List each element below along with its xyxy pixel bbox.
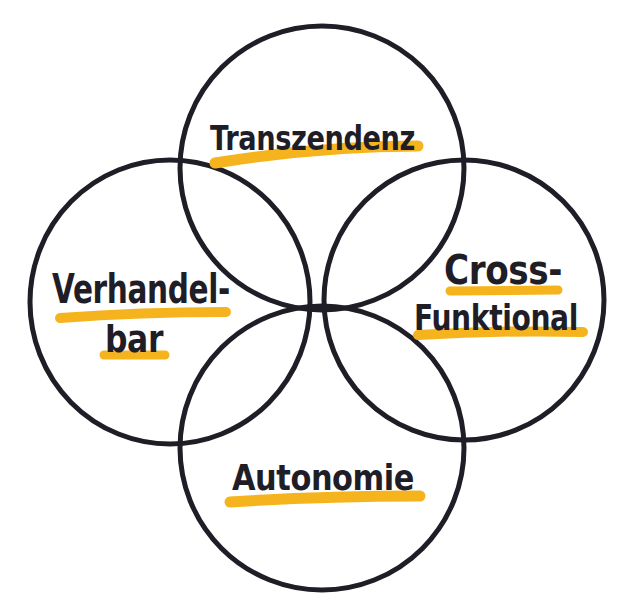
label-autonomie: Autonomie (232, 457, 414, 498)
venn-diagram: Transzendenz Verhandel- bar Cross- Funkt… (0, 0, 626, 609)
label-cross: Cross- (444, 247, 562, 293)
label-bar: bar (105, 317, 164, 361)
label-transzendenz: Transzendenz (210, 118, 415, 158)
circle-bottom (180, 306, 464, 590)
label-verhandel: Verhandel- (52, 266, 230, 312)
label-funktional: Funktional (414, 297, 578, 338)
